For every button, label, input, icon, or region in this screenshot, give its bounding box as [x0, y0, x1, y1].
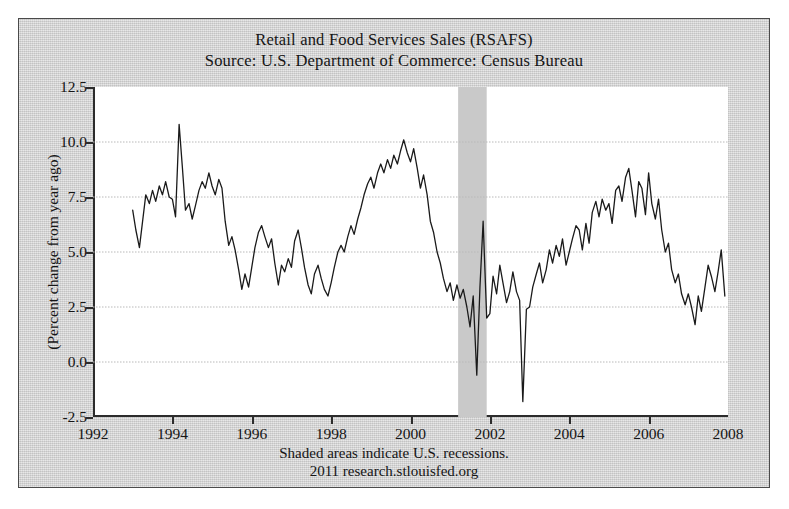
gridlines-group: [93, 142, 728, 362]
x-axis-tick-label: 2000: [395, 425, 426, 443]
y-axis-tick-mark: [86, 142, 93, 144]
x-axis-tick-label: 2006: [633, 425, 664, 443]
x-axis-tick-label: 2008: [713, 425, 744, 443]
y-axis-title-label: (Percent change from year ago): [44, 154, 62, 349]
chart-source-line: Source: U.S. Department of Commerce: Cen…: [19, 50, 769, 71]
plot-wrapper: -2.50.02.55.07.510.012.51992199419961998…: [93, 87, 728, 417]
x-axis-tick-label: 2004: [554, 425, 585, 443]
x-axis-tick-mark: [172, 417, 174, 424]
x-axis-tick-mark: [411, 417, 413, 424]
y-axis-tick-mark: [86, 87, 93, 89]
x-axis-tick-label: 1998: [316, 425, 347, 443]
x-axis-tick-mark: [649, 417, 651, 424]
x-axis-tick-label: 1992: [78, 425, 109, 443]
y-axis-tick-label: 5.0: [68, 243, 87, 261]
page-title: Retail and Food Services Sales (RSAFS): [19, 29, 769, 50]
x-axis-tick-mark: [569, 417, 571, 424]
x-axis-tick-mark: [490, 417, 492, 424]
y-axis-tick-mark: [86, 362, 93, 364]
x-axis-tick-label: 1994: [157, 425, 188, 443]
y-axis-tick-label: 7.5: [68, 188, 87, 206]
x-axis-tick-label: 1996: [236, 425, 267, 443]
footer-block: Shaded areas indicate U.S. recessions. 2…: [19, 444, 769, 480]
x-axis-tick-label: 2002: [474, 425, 505, 443]
y-axis-tick-mark: [86, 197, 93, 199]
y-axis-tick-label: 12.5: [60, 78, 87, 96]
data-series-group: [133, 124, 725, 401]
data-line: [133, 124, 725, 401]
x-axis-tick-mark: [331, 417, 333, 424]
y-axis-tick-label: 0.0: [68, 353, 87, 371]
y-axis-tick-label: -2.5: [62, 408, 87, 426]
figure-frame: Retail and Food Services Sales (RSAFS) S…: [18, 18, 770, 488]
y-axis-tick-label: 10.0: [60, 133, 87, 151]
source-credit: 2011 research.stlouisfed.org: [19, 462, 769, 480]
title-block: Retail and Food Services Sales (RSAFS) S…: [19, 29, 769, 71]
recession-note: Shaded areas indicate U.S. recessions.: [19, 444, 769, 462]
y-axis-tick-mark: [86, 252, 93, 254]
y-axis-tick-mark: [86, 307, 93, 309]
y-axis-tick-label: 2.5: [68, 298, 87, 316]
y-axis-tick-mark: [86, 417, 93, 419]
chart-svg: [93, 87, 728, 417]
x-axis-tick-mark: [252, 417, 254, 424]
